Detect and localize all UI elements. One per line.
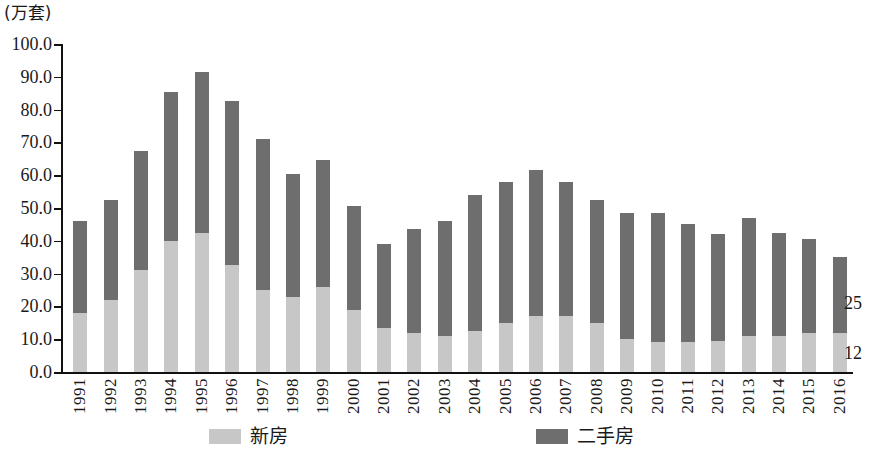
- y-axis-tick-mark: [54, 44, 62, 46]
- bar-segment-new: [499, 323, 513, 372]
- y-axis-tick-label: 50.0: [21, 199, 53, 217]
- x-axis-tick-label: 1993: [132, 378, 149, 414]
- x-axis-line: [61, 372, 853, 374]
- legend-label-used: 二手房: [577, 427, 634, 446]
- y-axis-tick-mark: [54, 175, 62, 177]
- x-axis-tick-label: 1991: [71, 378, 88, 414]
- bar-group: [802, 239, 816, 372]
- bar-group: [256, 139, 270, 372]
- bar-group: [620, 213, 634, 372]
- y-axis-tick-label: 0.0: [30, 363, 53, 381]
- x-axis-tick-label: 2002: [405, 378, 422, 414]
- bar-group: [590, 200, 604, 372]
- bar-segment-used: [407, 229, 421, 332]
- x-axis-tick-label: 2008: [588, 378, 605, 414]
- bar-segment-used: [134, 151, 148, 271]
- y-axis-tick-label: 30.0: [21, 265, 53, 283]
- bar-segment-used: [559, 182, 573, 316]
- bar-segment-new: [256, 290, 270, 372]
- y-axis-tick-mark: [54, 77, 62, 79]
- x-axis-tick-label: 2009: [618, 378, 635, 414]
- bar-segment-new: [529, 316, 543, 372]
- bar-segment-new: [772, 336, 786, 372]
- bar-segment-new: [347, 310, 361, 372]
- bar-segment-new: [438, 336, 452, 372]
- bar-segment-used: [164, 92, 178, 241]
- bar-segment-new: [104, 300, 118, 372]
- bar-group: [559, 182, 573, 372]
- bar-segment-used: [286, 174, 300, 297]
- annotation-new-2016: 12: [844, 344, 862, 362]
- bar-group: [772, 233, 786, 372]
- bar-segment-new: [711, 341, 725, 372]
- bar-group: [377, 244, 391, 372]
- annotation-used-2016: 25: [844, 294, 862, 312]
- bar-segment-new: [225, 265, 239, 372]
- legend-item-used: 二手房: [536, 427, 634, 446]
- bar-group: [286, 174, 300, 372]
- y-axis-tick-label: 60.0: [21, 166, 53, 184]
- bar-segment-new: [620, 339, 634, 372]
- bar-segment-used: [681, 224, 695, 342]
- bar-segment-used: [316, 160, 330, 286]
- bar-segment-new: [134, 270, 148, 372]
- bar-group: [104, 200, 118, 372]
- bar-group: [468, 195, 482, 372]
- bar-segment-new: [316, 287, 330, 372]
- x-axis-tick-label: 2005: [497, 378, 514, 414]
- bar-segment-used: [468, 195, 482, 331]
- x-axis-tick-label: 1997: [254, 378, 271, 414]
- x-axis-tick-label: 2016: [831, 378, 848, 414]
- bar-group: [347, 206, 361, 372]
- bar-segment-used: [590, 200, 604, 323]
- bar-group: [438, 221, 452, 372]
- legend-label-new: 新房: [250, 427, 288, 446]
- bar-group: [316, 160, 330, 372]
- bar-segment-used: [195, 72, 209, 233]
- bar-segment-new: [651, 342, 665, 372]
- y-axis-unit-caption: (万套): [4, 3, 51, 23]
- y-axis-tick-mark: [54, 142, 62, 144]
- bar-segment-used: [377, 244, 391, 328]
- bar-segment-new: [73, 313, 87, 372]
- bar-segment-new: [559, 316, 573, 372]
- bar-segment-new: [377, 328, 391, 372]
- bar-segment-used: [256, 139, 270, 290]
- bar-segment-used: [438, 221, 452, 336]
- x-axis-tick-label: 1992: [102, 378, 119, 414]
- y-axis-tick-mark: [54, 208, 62, 210]
- bar-group: [164, 92, 178, 372]
- x-axis-tick-label: 2011: [679, 378, 696, 413]
- y-axis-tick-label: 80.0: [21, 101, 53, 119]
- bar-segment-used: [347, 206, 361, 309]
- x-axis-tick-label: 2013: [740, 378, 757, 414]
- y-axis-tick-mark: [54, 306, 62, 308]
- bar-segment-used: [225, 101, 239, 265]
- bar-segment-used: [73, 221, 87, 313]
- bar-group: [651, 213, 665, 372]
- y-axis-tick-mark: [54, 372, 62, 374]
- y-axis-tick-label: 40.0: [21, 232, 53, 250]
- bar-segment-used: [620, 213, 634, 339]
- legend-swatch-used-icon: [536, 429, 568, 444]
- x-axis-tick-label: 1996: [223, 378, 240, 414]
- y-axis-tick-mark: [54, 339, 62, 341]
- x-axis-tick-label: 2004: [466, 378, 483, 414]
- bar-group: [529, 170, 543, 372]
- x-axis-tick-label: 2006: [527, 378, 544, 414]
- x-axis-tick-label: 1999: [314, 378, 331, 414]
- y-axis-tick-label: 100.0: [12, 35, 53, 53]
- legend-item-new: 新房: [209, 427, 288, 446]
- legend-swatch-new-icon: [209, 429, 241, 444]
- bar-segment-used: [772, 233, 786, 336]
- x-axis-tick-label: 2015: [800, 378, 817, 414]
- bar-segment-used: [742, 218, 756, 336]
- y-axis-tick-mark: [54, 274, 62, 276]
- x-axis-tick-label: 2014: [770, 378, 787, 414]
- bar-group: [499, 182, 513, 372]
- bar-segment-used: [499, 182, 513, 323]
- bar-segment-new: [468, 331, 482, 372]
- bar-segment-new: [802, 333, 816, 372]
- bar-group: [681, 224, 695, 372]
- y-axis-tick-label: 90.0: [21, 68, 53, 86]
